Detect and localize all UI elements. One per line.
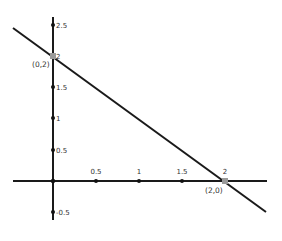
- x-tick-label: 2: [223, 168, 227, 176]
- y-tick-label: 2: [56, 53, 60, 61]
- point-label-2-0: (2,0): [205, 186, 223, 195]
- coordinate-plot: 2.5 2 1.5 1 0.5 -0.5 0.5 1 1.5 2 (0,2) (…: [0, 0, 282, 241]
- y-tick-label: -0.5: [56, 209, 70, 217]
- point-2-0: [222, 178, 228, 184]
- point-0-2: [50, 53, 56, 59]
- x-tick-label: 1: [137, 168, 141, 176]
- x-tick-label: 1.5: [176, 168, 187, 176]
- y-tick-label: 2.5: [56, 22, 67, 30]
- x-tick-label: 0.5: [90, 168, 101, 176]
- y-tick-label: 1: [56, 115, 60, 123]
- y-tick-label: 1.5: [56, 84, 67, 92]
- y-tick-label: 0.5: [56, 147, 67, 155]
- point-label-0-2: (0,2): [32, 60, 50, 69]
